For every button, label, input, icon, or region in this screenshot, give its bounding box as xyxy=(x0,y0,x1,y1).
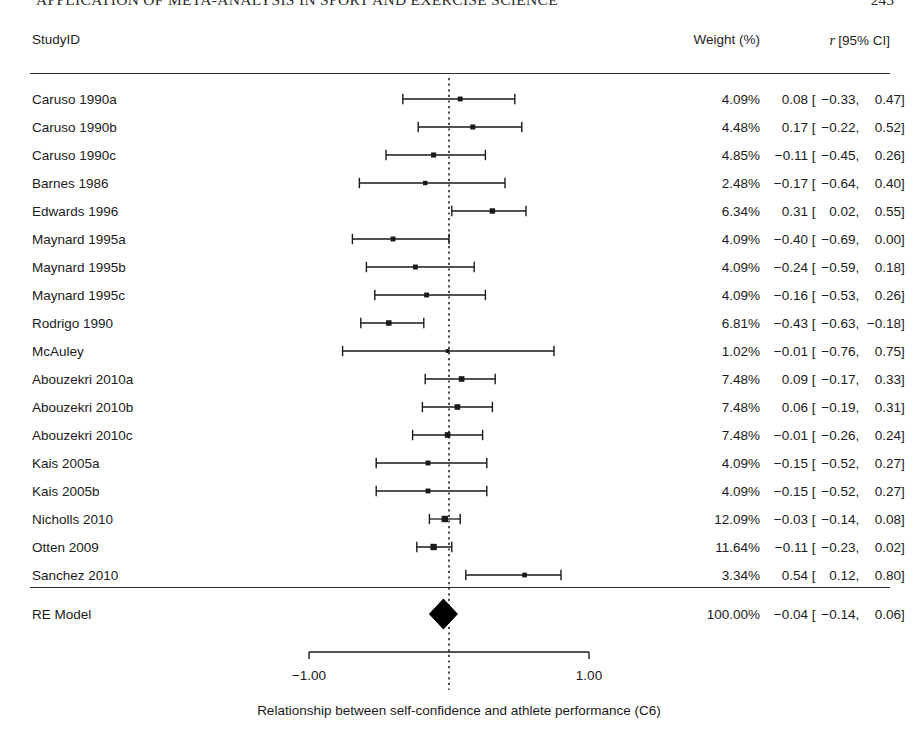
effect-marker xyxy=(423,181,427,185)
study-estimate-ci: −0.15 [−0.52, 0.27] xyxy=(770,456,890,471)
x-axis xyxy=(309,652,589,659)
forest-row-graphic xyxy=(343,346,554,356)
forest-row-graphic xyxy=(466,570,561,580)
study-weight: 4.09% xyxy=(660,232,760,247)
study-label: Maynard 1995c xyxy=(32,288,125,303)
column-header-estimate: r[95% CI] xyxy=(778,32,890,49)
estimate-ci-label: [95% CI] xyxy=(838,33,890,48)
study-estimate-ci: −0.17 [−0.64, 0.40] xyxy=(770,176,890,191)
estimate-symbol: r xyxy=(830,32,839,48)
effect-marker xyxy=(424,293,429,298)
study-label: Rodrigo 1990 xyxy=(32,316,113,331)
summary-weight: 100.00% xyxy=(660,607,760,622)
summary-estimate-ci: −0.04 [−0.14, 0.06] xyxy=(770,607,890,622)
study-estimate-ci: 0.06 [−0.19, 0.31] xyxy=(770,400,890,415)
study-weight: 7.48% xyxy=(660,428,760,443)
forest-row-graphic xyxy=(361,318,424,328)
forest-row-graphic xyxy=(386,150,485,160)
study-weight: 1.02% xyxy=(660,344,760,359)
study-weight: 4.09% xyxy=(660,288,760,303)
header-separator-rule xyxy=(30,73,890,74)
study-estimate-ci: −0.01 [−0.26, 0.24] xyxy=(770,428,890,443)
study-estimate-ci: −0.11 [−0.23, 0.02] xyxy=(770,540,890,555)
effect-marker xyxy=(490,208,495,213)
study-weight: 4.09% xyxy=(660,260,760,275)
study-label: Abouzekri 2010c xyxy=(32,428,133,443)
summary-separator-rule xyxy=(30,587,890,588)
effect-marker xyxy=(458,97,463,102)
effect-marker xyxy=(445,432,451,438)
study-weight: 4.48% xyxy=(660,120,760,135)
study-weight: 3.34% xyxy=(660,568,760,583)
study-label: Barnes 1986 xyxy=(32,176,109,191)
effect-marker xyxy=(459,376,465,382)
study-label: Maynard 1995b xyxy=(32,260,126,275)
study-estimate-ci: 0.17 [−0.22, 0.52] xyxy=(770,120,890,135)
summary-label: RE Model xyxy=(32,607,91,622)
study-weight: 4.09% xyxy=(660,484,760,499)
column-header-weight: Weight (%) xyxy=(690,32,760,47)
forest-row-graphic xyxy=(359,178,505,188)
study-estimate-ci: 0.31 [0.02, 0.55] xyxy=(770,204,890,219)
forest-row-graphic xyxy=(425,374,495,384)
effect-marker xyxy=(431,152,436,157)
effect-marker xyxy=(470,124,475,129)
effect-marker xyxy=(391,237,396,242)
forest-row-graphic xyxy=(352,234,449,244)
column-header-studyid: StudyID xyxy=(32,32,80,47)
study-weight: 11.64% xyxy=(660,540,760,555)
study-label: Maynard 1995a xyxy=(32,232,126,247)
forest-row-graphic xyxy=(417,542,452,552)
study-estimate-ci: −0.03 [−0.14, 0.08] xyxy=(770,512,890,527)
study-estimate-ci: 0.09 [−0.17, 0.33] xyxy=(770,372,890,387)
study-label: Sanchez 2010 xyxy=(32,568,118,583)
forest-row-graphic xyxy=(452,206,526,216)
study-weight: 12.09% xyxy=(660,512,760,527)
study-weight: 7.48% xyxy=(660,372,760,387)
forest-row-graphic xyxy=(366,262,474,272)
effect-marker xyxy=(426,489,431,494)
study-estimate-ci: −0.15 [−0.52, 0.27] xyxy=(770,484,890,499)
study-label: Kais 2005a xyxy=(32,456,100,471)
forest-row-graphic xyxy=(403,94,515,104)
study-estimate-ci: −0.24 [−0.59, 0.18] xyxy=(770,260,890,275)
effect-marker xyxy=(413,265,418,270)
study-estimate-ci: −0.11 [−0.45, 0.26] xyxy=(770,148,890,163)
forest-row-graphic xyxy=(376,458,487,468)
study-weight: 7.48% xyxy=(660,400,760,415)
summary-diamond xyxy=(429,599,457,629)
study-label: Caruso 1990c xyxy=(32,148,116,163)
study-label: Abouzekri 2010a xyxy=(32,372,133,387)
study-estimate-ci: −0.01 [−0.76, 0.75] xyxy=(770,344,890,359)
study-label: Kais 2005b xyxy=(32,484,100,499)
study-weight: 4.85% xyxy=(660,148,760,163)
effect-marker xyxy=(386,320,392,326)
figure-caption: Relationship between self-confidence and… xyxy=(0,703,918,718)
effect-marker xyxy=(442,516,448,522)
study-estimate-ci: 0.08 [−0.33, 0.47] xyxy=(770,92,890,107)
effect-marker xyxy=(446,349,450,353)
study-weight: 4.09% xyxy=(660,456,760,471)
study-label: Edwards 1996 xyxy=(32,204,118,219)
forest-row-graphic xyxy=(375,290,486,300)
forest-plot-figure: StudyID Weight (%) r[95% CI] Caruso 1990… xyxy=(0,0,918,731)
effect-marker xyxy=(426,461,431,466)
forest-row-graphic xyxy=(413,430,483,440)
axis-tick-label: 1.00 xyxy=(576,668,602,683)
study-label: Nicholls 2010 xyxy=(32,512,113,527)
forest-row-graphic xyxy=(422,402,492,412)
study-label: McAuley xyxy=(32,344,84,359)
study-label: Otten 2009 xyxy=(32,540,99,555)
study-estimate-ci: −0.43 [−0.63, −0.18] xyxy=(770,316,890,331)
forest-row-graphic xyxy=(376,486,487,496)
study-estimate-ci: −0.16 [−0.53, 0.26] xyxy=(770,288,890,303)
axis-tick-label: −1.00 xyxy=(292,668,326,683)
study-label: Caruso 1990a xyxy=(32,92,117,107)
study-weight: 2.48% xyxy=(660,176,760,191)
study-weight: 6.81% xyxy=(660,316,760,331)
study-weight: 4.09% xyxy=(660,92,760,107)
forest-row-graphic xyxy=(418,122,522,132)
forest-row-graphic xyxy=(429,514,460,524)
effect-marker xyxy=(455,404,461,410)
effect-marker xyxy=(430,544,436,550)
